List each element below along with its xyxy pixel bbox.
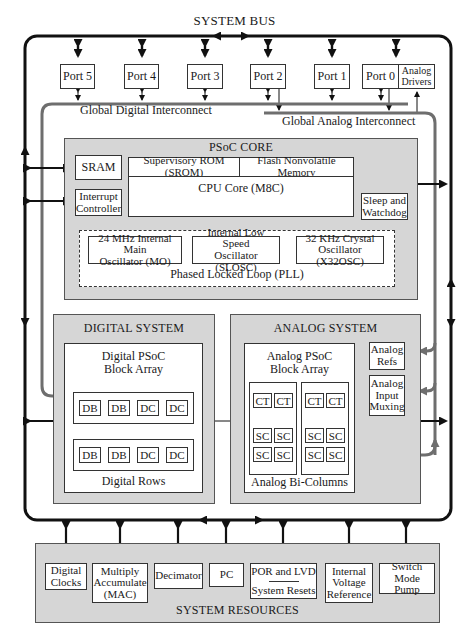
analog-block-sc: SC — [274, 428, 293, 443]
internal-voltage-reference: Internal Voltage Reference — [325, 563, 373, 603]
analog-block-ct: CT — [253, 393, 272, 408]
pll-label: Phased Locked Loop (PLL) — [79, 268, 395, 281]
analog-input-muxing: Analog Input Muxing — [369, 375, 405, 416]
decimator: Decimator — [154, 563, 203, 589]
global-digital-interconnect-label: Global Digital Interconnect — [80, 104, 212, 117]
flash-memory: Flash Nonvolatile Memory — [239, 157, 354, 177]
analog-block-sc: SC — [305, 447, 324, 462]
digital-block-db: DB — [79, 400, 101, 416]
digital-block-dc: DC — [137, 447, 159, 463]
analog-block-ct: CT — [274, 393, 293, 408]
port-5: Port 5 — [60, 64, 95, 89]
analog-block-sc: SC — [305, 428, 324, 443]
digital-block-dc: DC — [166, 400, 188, 416]
analog-system-title: ANALOG SYSTEM — [230, 322, 421, 335]
sleep-watchdog: Sleep and Watchdog — [361, 193, 408, 220]
analog-block-sc: SC — [326, 428, 345, 443]
analog-block-ct: CT — [305, 393, 324, 408]
analog-drivers: Analog Drivers — [398, 64, 435, 89]
divider — [269, 581, 299, 582]
digital-system-title: DIGITAL SYSTEM — [53, 322, 215, 335]
digital-block-dc: DC — [137, 400, 159, 416]
system-resources-title: SYSTEM RESOURCES — [35, 604, 440, 617]
multiply-accumulate: Multiply Accumulate (MAC) — [92, 563, 148, 603]
analog-block-sc: SC — [253, 428, 272, 443]
por-lvd-system-resets: POR and LVD System Resets — [250, 563, 317, 599]
global-analog-interconnect-label: Global Analog Interconnect — [282, 115, 415, 128]
interrupt-controller: Interrupt Controller — [75, 189, 122, 216]
port-0: Port 0 — [362, 64, 399, 89]
digital-block-dc: DC — [166, 447, 188, 463]
analog-block-ct: CT — [326, 393, 345, 408]
port-2: Port 2 — [250, 64, 286, 89]
port-4: Port 4 — [124, 64, 159, 89]
digital-block-db: DB — [108, 400, 130, 416]
digital-array-label: Digital PSoC Block Array — [64, 350, 203, 376]
analog-refs: Analog Refs — [369, 342, 405, 370]
switch-mode-pump: Switch Mode Pump — [379, 563, 435, 594]
oscillator-crystal: 32 KHz Crystal Oscillator (X32OSC) — [296, 236, 384, 264]
port-3: Port 3 — [187, 64, 223, 89]
analog-block-sc: SC — [253, 447, 272, 462]
cpu-core: CPU Core (M8C) — [128, 176, 354, 217]
analog-block-sc: SC — [274, 447, 293, 462]
oscillator-low-speed: Internal Low Speed Oscillator (SLOSC) — [192, 236, 280, 264]
digital-block-db: DB — [79, 447, 101, 463]
analog-block-sc: SC — [326, 447, 345, 462]
digital-block-db: DB — [108, 447, 130, 463]
analog-bi-columns-label: Analog Bi-Columns — [244, 476, 355, 489]
supervisory-rom: Supervisory ROM (SROM) — [128, 157, 240, 177]
pc: PC — [209, 563, 244, 587]
oscillator-main: 24 MHz Internal Main Oscillator (MO) — [88, 236, 182, 264]
sram: SRAM — [75, 155, 122, 180]
psoc-core-title: PSoC CORE — [64, 141, 418, 154]
port-1: Port 1 — [314, 64, 350, 89]
digital-rows-label: Digital Rows — [64, 475, 203, 488]
digital-clocks: Digital Clocks — [45, 563, 87, 590]
analog-array-label: Analog PSoC Block Array — [244, 350, 355, 376]
